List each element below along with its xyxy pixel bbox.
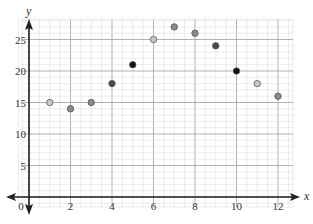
data-point	[109, 80, 115, 86]
y-tick-label: 15	[15, 97, 27, 109]
data-point	[47, 99, 53, 105]
data-point	[233, 68, 239, 74]
data-point	[130, 61, 136, 67]
x-tick-label: 4	[109, 200, 115, 212]
x-tick-label: 2	[68, 200, 74, 212]
data-point	[213, 43, 219, 49]
grid	[19, 19, 293, 207]
data-point	[192, 30, 198, 36]
tick-labels: 024681012510152025	[15, 34, 284, 213]
y-tick-label: 5	[21, 160, 27, 172]
x-tick-label: 10	[231, 200, 243, 212]
y-tick-label: 10	[15, 128, 27, 140]
x-tick-label: 0	[18, 200, 24, 212]
data-point	[67, 106, 73, 112]
data-point	[254, 80, 260, 86]
x-tick-label: 8	[192, 200, 198, 212]
data-point	[150, 36, 156, 42]
x-tick-label: 6	[151, 200, 157, 212]
x-tick-label: 12	[273, 200, 284, 212]
data-point	[88, 99, 94, 105]
data-point	[275, 93, 281, 99]
axes	[6, 19, 300, 215]
y-axis-label: y	[25, 4, 32, 18]
y-tick-label: 20	[15, 65, 27, 77]
x-axis-label: x	[303, 189, 310, 203]
y-tick-label: 25	[15, 34, 27, 46]
data-point	[171, 24, 177, 30]
scatter-chart: 024681012510152025 x y	[0, 0, 313, 224]
